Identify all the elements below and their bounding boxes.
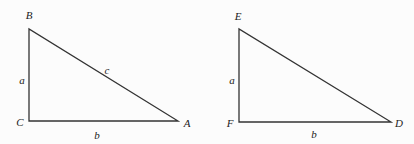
vertex-label-a: A <box>184 118 191 129</box>
vertex-label-d: D <box>395 118 403 129</box>
side-label-c: c <box>105 65 110 76</box>
triangle-abc <box>29 29 178 121</box>
vertex-label-f: F <box>227 118 234 129</box>
side-label-a-left: a <box>19 75 25 86</box>
vertex-label-e: E <box>235 11 242 22</box>
triangle-def <box>239 29 391 122</box>
vertex-label-b: B <box>26 10 33 21</box>
diagram: B C A a b c E F D a b <box>0 0 414 144</box>
side-label-b-left: b <box>94 130 100 141</box>
vertex-label-c: C <box>16 117 23 128</box>
triangles-svg <box>0 0 414 144</box>
side-label-a-right: a <box>229 75 235 86</box>
side-label-b-right: b <box>311 129 317 140</box>
